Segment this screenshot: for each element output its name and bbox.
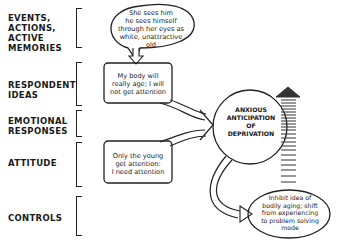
arrow-idea-to-emotion-2 — [170, 100, 206, 114]
text-line: from experiencing — [250, 209, 330, 217]
idea-box-text: My body will really age; I will not get … — [104, 72, 172, 96]
text-line: ANXIOUS — [213, 106, 289, 114]
text-line: mode — [250, 224, 330, 232]
text-line: OF — [213, 122, 289, 130]
text-line: I need attention — [104, 168, 172, 176]
text-line: DEPRIVATION — [213, 130, 289, 138]
text-line: he sees himself — [108, 17, 194, 25]
text-line: Inhibit idea of — [250, 194, 330, 202]
text-line: ANTICIPATION — [213, 114, 289, 122]
text-line: really age; I will — [104, 80, 172, 88]
arrow-event-to-idea — [129, 48, 143, 64]
arrow-emotion-to-control-2 — [216, 160, 240, 211]
text-line: Only the young — [104, 152, 172, 160]
attitude-box-text: Only the young get attention: I need att… — [104, 152, 172, 176]
control-ellipse-text: Inhibit idea of bodily aging; shift from… — [250, 194, 330, 232]
text-line: old — [108, 41, 194, 49]
text-line: My body will — [104, 72, 172, 80]
text-line: not get attention — [104, 88, 172, 96]
text-line: white, unattractive — [108, 33, 194, 41]
text-line: bodily aging; shift — [250, 202, 330, 210]
text-line: to problem solving — [250, 217, 330, 225]
arrowhead-emotion — [200, 110, 213, 140]
arrow-emotion-to-control — [210, 156, 238, 218]
text-line: through her eyes as — [108, 25, 194, 33]
event-bubble-text: She sees him he sees himself through her… — [108, 9, 194, 49]
arrow-attitude-to-emotion-2 — [170, 136, 206, 146]
text-line: She sees him — [108, 9, 194, 17]
text-line: get attention: — [104, 160, 172, 168]
emotion-circle-text: ANXIOUS ANTICIPATION OF DEPRIVATION — [213, 106, 289, 138]
